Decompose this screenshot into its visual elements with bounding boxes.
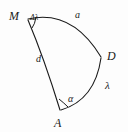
vertex-label-m: M: [9, 10, 19, 22]
side-d-arc: [28, 20, 60, 110]
side-lambda-arc: [61, 58, 101, 110]
side-a-arc: [28, 17, 101, 57]
angle-alpha-marker: [59, 99, 68, 107]
triangle-drawing: [0, 0, 128, 132]
side-label-a: a: [75, 10, 80, 20]
vertex-label-a: A: [54, 117, 61, 129]
spherical-triangle-figure: M A D a d λ Δλ α: [0, 0, 128, 132]
angle-label-alpha: α: [68, 94, 73, 104]
vertex-label-d: D: [107, 50, 116, 62]
side-label-lambda: λ: [105, 80, 110, 91]
side-label-d: d: [36, 54, 41, 64]
angle-label-delta-lambda: Δλ: [30, 14, 38, 22]
